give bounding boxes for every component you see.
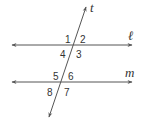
- angle-label-2: 2: [80, 34, 86, 45]
- angle-label-3: 3: [76, 49, 82, 60]
- angle-label-8: 8: [47, 87, 53, 98]
- transversal-t-stroke: [49, 7, 86, 117]
- angle-label-6: 6: [68, 71, 74, 82]
- line-m-label: m: [125, 65, 134, 80]
- angle-label-1: 1: [65, 34, 71, 45]
- line-l-label: ℓ: [128, 28, 134, 43]
- transversal-t-label: t: [90, 0, 94, 15]
- line-l: ℓ: [12, 28, 134, 45]
- transversal-t: t: [49, 0, 94, 117]
- parallel-lines-diagram: ℓ m t 1 2 3 4 5 6 7 8: [0, 0, 144, 122]
- angle-label-4: 4: [60, 49, 66, 60]
- angle-label-5: 5: [53, 71, 59, 82]
- angle-label-7: 7: [64, 87, 70, 98]
